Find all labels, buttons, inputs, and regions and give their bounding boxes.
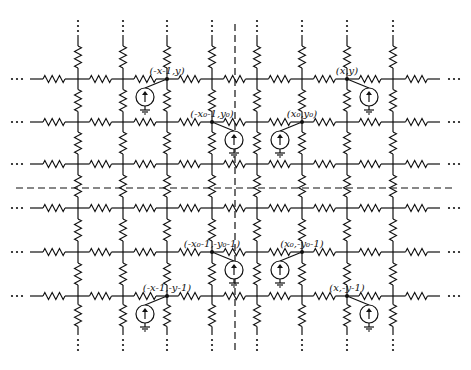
- resistor-icon: [134, 161, 156, 168]
- resistor-icon: [43, 293, 65, 300]
- resistor-icon: [209, 46, 216, 68]
- ellipsis-icon: [21, 207, 23, 209]
- ellipsis-icon: [211, 349, 213, 351]
- resistor-icon: [120, 305, 127, 327]
- resistor-icon: [90, 161, 112, 168]
- resistor-icon: [254, 219, 261, 241]
- resistor-icon: [134, 293, 156, 300]
- resistor-icon: [75, 305, 82, 327]
- ellipsis-icon: [11, 121, 13, 123]
- ellipsis-icon: [458, 295, 460, 297]
- resistor-icon: [299, 46, 306, 68]
- ellipsis-icon: [211, 30, 213, 32]
- resistor-icon: [75, 219, 82, 241]
- node-label: (-x-1,-y-1): [143, 282, 191, 293]
- resistor-icon: [406, 249, 428, 256]
- resistor-icon: [120, 90, 127, 112]
- ellipsis-icon: [166, 20, 168, 22]
- resistor-icon: [179, 293, 201, 300]
- resistor-icon: [406, 119, 428, 126]
- ellipsis-icon: [21, 78, 23, 80]
- ellipsis-icon: [77, 344, 79, 346]
- resistor-icon: [390, 175, 397, 197]
- current-source-n5: [210, 250, 243, 287]
- resistor-icon: [254, 90, 261, 112]
- ellipsis-icon: [453, 121, 455, 123]
- ellipsis-icon: [11, 163, 13, 165]
- resistor-icon: [344, 305, 351, 327]
- resistor-icon: [43, 249, 65, 256]
- resistor-icon: [75, 263, 82, 285]
- ellipsis-icon: [211, 339, 213, 341]
- resistor-icon: [120, 175, 127, 197]
- resistor-icon: [75, 132, 82, 154]
- ellipsis-icon: [448, 207, 450, 209]
- ellipsis-icon: [256, 344, 258, 346]
- resistor-icon: [209, 132, 216, 154]
- ellipsis-icon: [458, 251, 460, 253]
- resistor-icon: [254, 175, 261, 197]
- ellipsis-icon: [453, 78, 455, 80]
- resistor-icon: [390, 305, 397, 327]
- node-labels: (-x-1,y)(x,y)(-x₀-1,y₀)(x₀,y₀)(-x₀-1,-y₀…: [143, 65, 365, 293]
- ellipsis-icon: [16, 207, 18, 209]
- resistor-icon: [269, 119, 291, 126]
- ellipsis-icon: [448, 163, 450, 165]
- resistor-icon: [299, 263, 306, 285]
- resistor-icon: [134, 249, 156, 256]
- resistor-icon: [75, 90, 82, 112]
- ellipsis-icon: [346, 25, 348, 27]
- resistor-icon: [120, 132, 127, 154]
- resistor-icon: [134, 205, 156, 212]
- resistor-icon: [179, 249, 201, 256]
- resistor-icon: [179, 161, 201, 168]
- resistor-icon: [269, 161, 291, 168]
- resistor-grid-diagram: (-x-1,y)(x,y)(-x₀-1,y₀)(x₀,y₀)(-x₀-1,-y₀…: [0, 0, 471, 370]
- ellipsis-icon: [211, 20, 213, 22]
- ellipsis-icon: [458, 121, 460, 123]
- resistor-icon: [359, 205, 381, 212]
- ellipsis-icon: [21, 251, 23, 253]
- ellipsis-icon: [122, 30, 124, 32]
- ellipsis-icon: [11, 295, 13, 297]
- ellipsis-icon: [11, 207, 13, 209]
- source-lead: [280, 252, 302, 261]
- resistor-icon: [90, 249, 112, 256]
- ellipsis-icon: [256, 339, 258, 341]
- ellipsis-icon: [166, 25, 168, 27]
- source-lead: [280, 122, 302, 131]
- ellipsis-icon: [448, 251, 450, 253]
- resistor-icon: [164, 132, 171, 154]
- resistor-icon: [344, 132, 351, 154]
- circuit-svg: (-x-1,y)(x,y)(-x₀-1,y₀)(x₀,y₀)(-x₀-1,-y₀…: [0, 0, 471, 370]
- resistor-icon: [164, 175, 171, 197]
- resistor-icon: [299, 305, 306, 327]
- ellipsis-icon: [453, 251, 455, 253]
- ellipsis-icon: [256, 25, 258, 27]
- ellipsis-icon: [458, 78, 460, 80]
- resistor-icon: [43, 205, 65, 212]
- resistor-icon: [254, 132, 261, 154]
- ellipsis-icon: [392, 349, 394, 351]
- ellipsis-icon: [21, 163, 23, 165]
- ellipsis-icon: [211, 25, 213, 27]
- ellipsis-icon: [77, 30, 79, 32]
- resistor-icon: [43, 161, 65, 168]
- ellipsis-icon: [11, 78, 13, 80]
- ellipsis-icon: [77, 25, 79, 27]
- resistor-icon: [43, 119, 65, 126]
- resistor-icon: [254, 263, 261, 285]
- ellipsis-icon: [448, 121, 450, 123]
- ellipsis-icon: [346, 30, 348, 32]
- ellipsis-icon: [453, 207, 455, 209]
- resistor-icon: [90, 76, 112, 83]
- resistor-icon: [120, 219, 127, 241]
- resistor-icon: [209, 263, 216, 285]
- node-label: (x,y): [336, 65, 358, 76]
- resistor-icon: [390, 219, 397, 241]
- ellipsis-icon: [16, 295, 18, 297]
- node-label: (x,-y-1): [329, 282, 364, 293]
- resistor-icon: [406, 205, 428, 212]
- node-label: (x₀,y₀): [287, 108, 317, 119]
- ellipsis-icon: [392, 20, 394, 22]
